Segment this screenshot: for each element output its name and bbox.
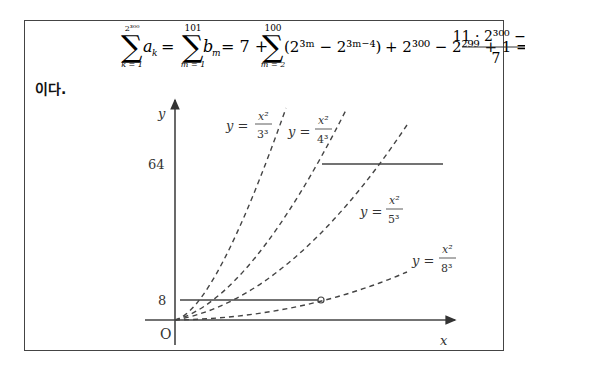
- svg-text:8³: 8³: [441, 262, 452, 275]
- label-curve-4: y = x² 4³: [287, 114, 332, 146]
- label-curve-8: y = x² 8³: [411, 243, 456, 275]
- svg-text:x²: x²: [389, 194, 400, 207]
- curve-x2-over-8cubed: [175, 272, 407, 320]
- svg-text:y =: y =: [287, 124, 310, 139]
- origin-label: O: [160, 326, 171, 342]
- svg-text:y =: y =: [225, 118, 248, 133]
- svg-text:x²: x²: [258, 110, 269, 123]
- svg-text:y =: y =: [411, 253, 434, 268]
- x-axis-label: x: [440, 333, 448, 348]
- curve-x2-over-3cubed: [175, 108, 286, 320]
- parabola-graph: x y O 64 8 y = x² 3³ y = x² 4³ y = x² 5³…: [0, 0, 609, 372]
- svg-text:x²: x²: [318, 114, 329, 127]
- y-tick-8: 8: [158, 293, 166, 308]
- svg-text:x²: x²: [442, 243, 453, 256]
- svg-text:4³: 4³: [317, 133, 328, 146]
- svg-text:3³: 3³: [257, 128, 268, 141]
- y-axis-label: y: [157, 106, 166, 121]
- y-tick-64: 64: [148, 157, 165, 172]
- label-curve-5: y = x² 5³: [359, 194, 403, 226]
- curve-x2-over-5cubed: [175, 125, 407, 320]
- label-curve-3: y = x² 3³: [225, 110, 272, 141]
- svg-text:y =: y =: [359, 204, 382, 219]
- svg-text:5³: 5³: [388, 213, 399, 226]
